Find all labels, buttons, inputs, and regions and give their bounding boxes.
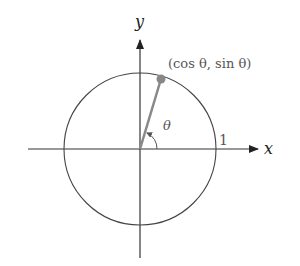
unit-circle-diagram: y x (cos θ, sin θ) θ 1 xyxy=(0,0,300,266)
point-label: (cos θ, sin θ) xyxy=(168,56,251,71)
point-marker xyxy=(157,75,166,84)
angle-arc xyxy=(147,133,157,149)
x-axis-label: x xyxy=(264,139,273,158)
y-axis-label: y xyxy=(134,12,145,31)
radius-label: 1 xyxy=(219,132,228,148)
angle-label: θ xyxy=(163,118,171,133)
radius-line xyxy=(140,79,161,149)
